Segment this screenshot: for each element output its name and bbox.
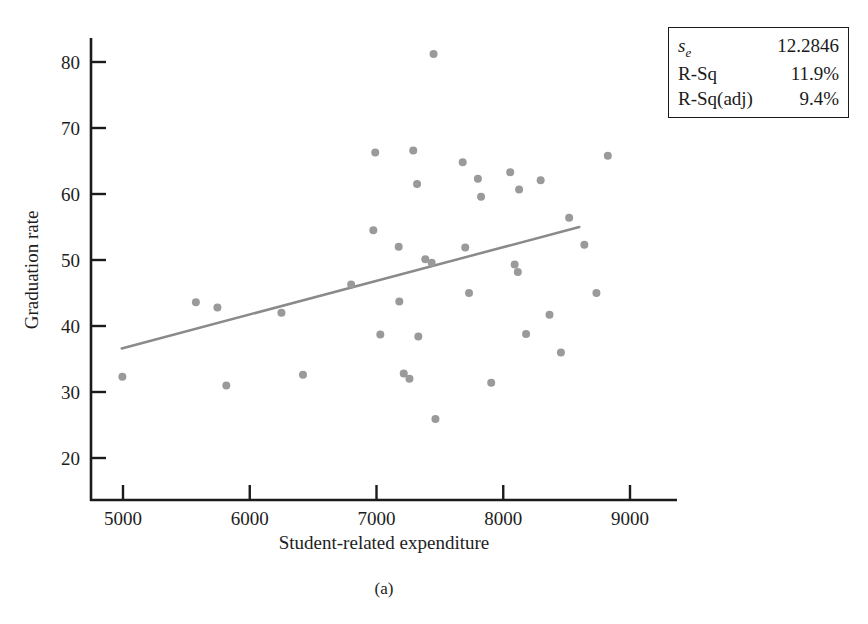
scatter-point [118,373,126,381]
scatter-point [465,289,473,297]
scatter-point [580,241,588,249]
scatter-point [592,289,600,297]
scatter-point [474,175,482,183]
scatter-point [409,146,417,154]
scatter-points [118,50,611,423]
y-tick-label: 50 [61,250,80,271]
scatter-point [430,50,438,58]
scatter-point [395,298,403,306]
y-tick-label: 60 [61,184,80,205]
y-tick-label: 20 [61,448,80,469]
scatter-point [414,333,422,341]
stats-value-rsq: 11.9% [791,61,839,86]
x-axis-title: Student-related expenditure [279,532,490,553]
scatter-point [546,311,554,319]
scatter-point [557,348,565,356]
scatter-point [459,158,467,166]
x-axis-ticks: 50006000700080009000 [104,485,649,529]
scatter-point [487,379,495,387]
stats-label-rsq: R-Sq [678,61,717,86]
x-tick-label: 5000 [104,508,142,529]
stats-value-rsq-adj: 9.4% [799,86,839,111]
scatter-plot-figure: 20304050607080 50006000700080009000 Stud… [0,0,868,624]
scatter-point [537,176,545,184]
scatter-point [347,280,355,288]
scatter-point [299,371,307,379]
scatter-point [514,268,522,276]
stats-label-rsq-adj: R-Sq(adj) [678,86,753,111]
x-tick-label: 8000 [484,508,522,529]
scatter-point [371,148,379,156]
stats-label-se-subscript: e [685,45,691,60]
figure-caption: (a) [375,579,394,598]
scatter-point [511,261,519,269]
scatter-point [277,309,285,317]
stats-row-rsq: R-Sq 11.9% [678,61,839,86]
y-axis-title: Graduation rate [21,211,42,330]
scatter-point [376,331,384,339]
axes-group [90,38,677,501]
scatter-point [413,180,421,188]
x-tick-label: 7000 [358,508,396,529]
stats-label-se: se [678,33,691,61]
y-tick-label: 80 [61,52,80,73]
scatter-point [565,214,573,222]
scatter-point [431,415,439,423]
stats-value-se: 12.2846 [777,33,839,58]
scatter-point [192,298,200,306]
scatter-point [369,226,377,234]
scatter-point [522,330,530,338]
y-tick-label: 70 [61,118,80,139]
scatter-point [515,185,523,193]
scatter-point [213,304,221,312]
scatter-point [428,259,436,267]
scatter-point [604,152,612,160]
scatter-point [222,381,230,389]
scatter-point [477,193,485,201]
stats-row-se: se 12.2846 [678,33,839,61]
statistics-box: se 12.2846 R-Sq 11.9% R-Sq(adj) 9.4% [668,27,849,118]
scatter-point [395,243,403,251]
x-tick-label: 9000 [611,508,649,529]
scatter-point [506,168,514,176]
y-tick-label: 40 [61,316,80,337]
scatter-point [461,243,469,251]
y-axis-ticks: 20304050607080 [61,52,106,469]
stats-row-rsq-adj: R-Sq(adj) 9.4% [678,86,839,111]
y-tick-label: 30 [61,382,80,403]
scatter-point [405,375,413,383]
x-tick-label: 6000 [231,508,269,529]
